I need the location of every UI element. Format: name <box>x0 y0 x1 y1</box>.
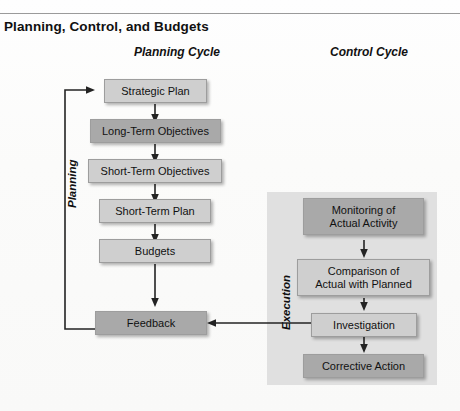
node-feedback-label: Feedback <box>127 317 175 330</box>
node-comparison-label-line2: Actual with Planned <box>315 278 412 291</box>
node-corrective-action-label: Corrective Action <box>322 360 405 373</box>
node-feedback[interactable]: Feedback <box>95 311 207 335</box>
node-monitoring-of-actual-activity[interactable]: Monitoring of Actual Activity <box>303 198 424 235</box>
node-corrective-action[interactable]: Corrective Action <box>303 354 424 378</box>
planning-side-label: Planning <box>66 159 78 208</box>
node-investigation-label: Investigation <box>333 319 395 332</box>
node-short-term-plan-label: Short-Term Plan <box>115 205 194 218</box>
node-budgets[interactable]: Budgets <box>99 239 211 263</box>
node-budgets-label: Budgets <box>135 245 175 258</box>
node-short-term-plan[interactable]: Short-Term Plan <box>99 199 211 223</box>
node-strategic-plan[interactable]: Strategic Plan <box>104 79 207 103</box>
node-strategic-plan-label: Strategic Plan <box>121 85 189 98</box>
node-monitoring-label-line1: Monitoring of <box>332 204 396 217</box>
node-short-term-objectives-label: Short-Term Objectives <box>101 165 210 178</box>
node-comparison-label-line1: Comparison of <box>328 265 400 278</box>
node-monitoring-label-line2: Actual Activity <box>330 217 398 230</box>
diagram-page: Planning, Control, and Budgets Planning … <box>0 0 460 411</box>
node-long-term-objectives-label: Long-Term Objectives <box>102 125 209 138</box>
node-short-term-objectives[interactable]: Short-Term Objectives <box>88 159 222 183</box>
node-long-term-objectives[interactable]: Long-Term Objectives <box>90 119 221 143</box>
node-comparison-actual-with-planned[interactable]: Comparison of Actual with Planned <box>297 259 430 296</box>
execution-side-label: Execution <box>280 275 292 330</box>
node-investigation[interactable]: Investigation <box>311 313 417 337</box>
